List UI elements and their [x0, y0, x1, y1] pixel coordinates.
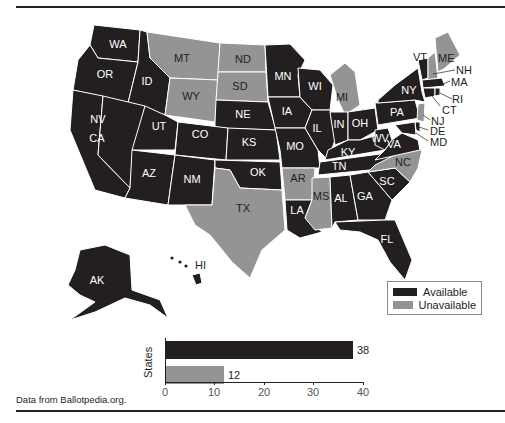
label-co: CO	[192, 128, 209, 140]
label-sc: SC	[379, 175, 394, 187]
x-tick	[363, 382, 364, 385]
label-mt: MT	[174, 52, 190, 64]
label-ak: AK	[90, 274, 105, 286]
state-ri[interactable]	[435, 88, 440, 96]
label-la: LA	[290, 204, 304, 216]
leader-line	[432, 96, 440, 106]
chart-y-label: States	[142, 347, 154, 378]
label-ny: NY	[401, 84, 417, 96]
x-tick	[214, 382, 215, 385]
legend-swatch-unavailable	[393, 301, 413, 309]
label-nh: NH	[456, 64, 472, 76]
state-hi-island	[178, 260, 181, 263]
label-ma: MA	[451, 76, 468, 88]
state-nj[interactable]	[417, 103, 425, 122]
legend-item-available: Available	[393, 285, 476, 298]
label-ar: AR	[290, 172, 305, 184]
state-md[interactable]	[395, 122, 416, 135]
x-tick-label: 40	[357, 386, 369, 398]
label-ut: UT	[152, 120, 167, 132]
x-tick-label: 10	[208, 386, 220, 398]
label-mn: MN	[274, 70, 291, 82]
legend-item-unavailable: Unavailable	[393, 298, 476, 311]
label-ks: KS	[242, 136, 257, 148]
label-fl: FL	[381, 233, 394, 245]
label-nd: ND	[235, 53, 251, 65]
x-tick	[165, 382, 166, 385]
label-or: OR	[97, 68, 114, 80]
label-sd: SD	[232, 80, 247, 92]
label-hi: HI	[195, 259, 206, 271]
x-tick-label: 20	[258, 386, 270, 398]
label-tx: TX	[236, 202, 251, 214]
label-ga: GA	[357, 190, 374, 202]
label-oh: OH	[352, 117, 369, 129]
state-mi[interactable]	[330, 63, 360, 115]
label-md: MD	[430, 136, 447, 148]
x-tick	[313, 382, 314, 385]
label-az: AZ	[142, 167, 156, 179]
state-fl[interactable]	[335, 220, 412, 280]
label-pa: PA	[390, 106, 405, 118]
label-tn: TN	[332, 160, 347, 172]
state-ma[interactable]	[422, 78, 445, 88]
label-mo: MO	[286, 140, 304, 152]
label-ms: MS	[313, 190, 330, 202]
legend-label: Available	[423, 286, 467, 298]
state-hi-island	[184, 264, 187, 267]
label-me: ME	[438, 52, 455, 64]
label-wi: WI	[308, 80, 321, 92]
bottom-rule	[16, 410, 505, 412]
label-mi: MI	[336, 91, 348, 103]
label-in: IN	[334, 118, 345, 130]
label-ky: KY	[341, 146, 356, 158]
label-al: AL	[334, 192, 347, 204]
label-wa: WA	[109, 38, 127, 50]
label-va: VA	[387, 138, 402, 150]
label-ia: IA	[282, 105, 293, 117]
bar-value-available: 38	[357, 344, 369, 356]
source-note: Data from Ballotpedia.org.	[16, 394, 126, 405]
label-ne: NE	[235, 108, 250, 120]
bar-value-unavailable: 12	[228, 369, 240, 381]
state-hi-island	[170, 256, 173, 259]
label-nm: NM	[183, 173, 200, 185]
leader-line	[440, 93, 452, 99]
x-tick-label: 30	[307, 386, 319, 398]
state-ct[interactable]	[423, 88, 435, 98]
label-il: IL	[312, 122, 321, 134]
bar-available	[166, 341, 353, 359]
map-legend: Available Unavailable	[387, 281, 482, 315]
x-tick	[264, 382, 265, 385]
x-tick-label: 0	[162, 386, 168, 398]
state-ak[interactable]	[68, 245, 168, 320]
state-hi[interactable]	[192, 273, 202, 285]
label-ok: OK	[250, 166, 267, 178]
label-id: ID	[142, 75, 153, 87]
label-vt: VT	[413, 51, 427, 63]
legend-swatch-available	[393, 288, 417, 296]
legend-label: Unavailable	[419, 299, 476, 311]
label-wy: WY	[182, 90, 200, 102]
label-nc: NC	[395, 156, 411, 168]
label-nv: NV	[90, 113, 106, 125]
label-ca: CA	[89, 132, 105, 144]
